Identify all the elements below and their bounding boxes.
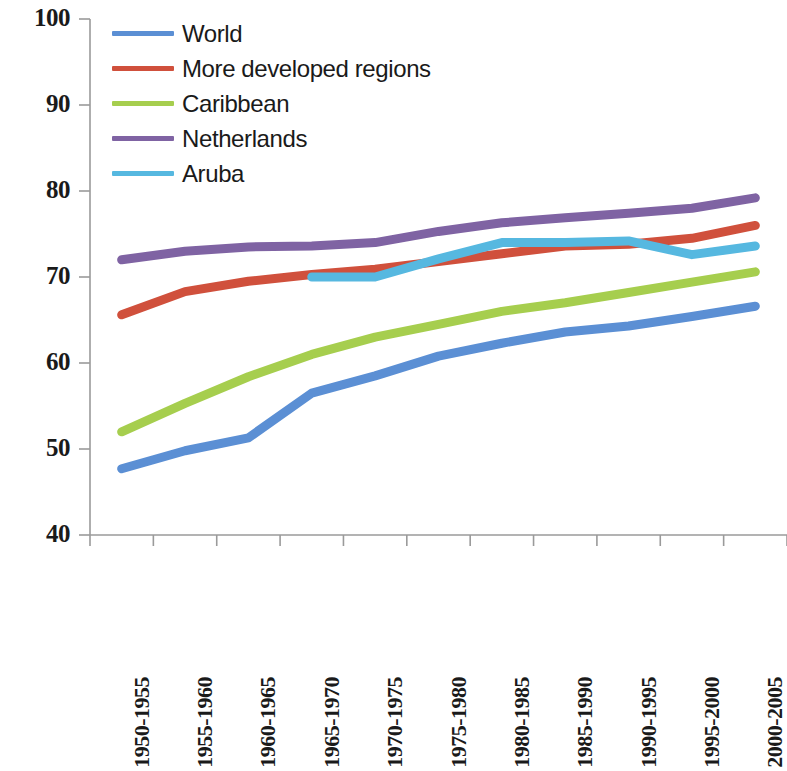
legend-item-more-developed-regions[interactable]: More developed regions bbox=[112, 51, 532, 86]
legend-item-world[interactable]: World bbox=[112, 16, 532, 51]
legend-item-label: Aruba bbox=[182, 160, 244, 188]
legend-swatch-icon bbox=[112, 31, 174, 36]
series-lines bbox=[122, 198, 756, 469]
legend-swatch-icon bbox=[112, 171, 174, 176]
x-tick-label: 1950-1955 bbox=[131, 677, 153, 771]
x-tick-label: 1995-2000 bbox=[701, 677, 723, 771]
y-tick-label: 80 bbox=[8, 177, 70, 202]
series-line-more-developed-regions bbox=[122, 225, 756, 314]
x-tick-label: 1970-1975 bbox=[384, 677, 406, 771]
legend-item-label: Caribbean bbox=[182, 90, 289, 118]
x-tick-label: 2000-2005 bbox=[764, 677, 786, 771]
legend-item-label: More developed regions bbox=[182, 55, 431, 83]
legend-item-label: World bbox=[182, 20, 242, 48]
y-tick-label: 70 bbox=[8, 263, 70, 288]
chart-legend: WorldMore developed regionsCaribbeanNeth… bbox=[112, 16, 532, 191]
legend-item-aruba[interactable]: Aruba bbox=[112, 156, 532, 191]
x-tick-label: 1955-1960 bbox=[194, 677, 216, 771]
x-tick-label: 1965-1970 bbox=[321, 677, 343, 771]
x-tick-label: 1985-1990 bbox=[574, 677, 596, 771]
y-axis-tick-labels: 100908070605040 bbox=[0, 0, 70, 560]
legend-swatch-icon bbox=[112, 66, 174, 71]
y-tick-label: 90 bbox=[8, 91, 70, 116]
legend-swatch-icon bbox=[112, 136, 174, 141]
legend-item-caribbean[interactable]: Caribbean bbox=[112, 86, 532, 121]
y-tick-label: 100 bbox=[8, 5, 70, 30]
x-axis-tick-labels: 1950-19551955-19601960-19651965-19701970… bbox=[0, 537, 787, 684]
x-tick-label: 1975-1980 bbox=[448, 677, 470, 771]
y-tick-label: 60 bbox=[8, 349, 70, 374]
legend-item-netherlands[interactable]: Netherlands bbox=[112, 121, 532, 156]
x-tick-label: 1960-1965 bbox=[257, 677, 279, 771]
legend-item-label: Netherlands bbox=[182, 125, 307, 153]
x-tick-label: 1990-1995 bbox=[638, 677, 660, 771]
legend-swatch-icon bbox=[112, 101, 174, 106]
x-tick-label: 1980-1985 bbox=[511, 677, 533, 771]
y-tick-label: 50 bbox=[8, 435, 70, 460]
